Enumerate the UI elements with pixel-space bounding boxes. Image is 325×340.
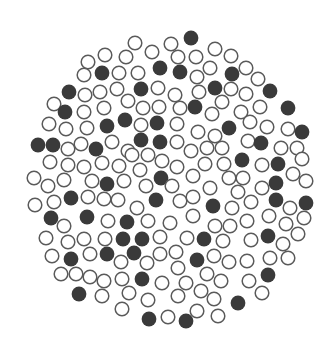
open-disc [222,255,236,269]
open-disc [279,217,293,231]
open-disc [170,160,184,174]
open-disc [260,120,274,134]
open-disc [69,267,83,281]
open-disc [170,135,184,149]
filled-disc [269,193,284,208]
filled-disc [184,31,199,46]
open-disc [43,155,57,169]
open-disc [244,195,258,209]
open-disc [286,167,300,181]
filled-disc [100,119,115,134]
open-disc [133,163,147,177]
filled-disc [149,193,164,208]
open-disc [217,157,231,171]
open-disc [186,169,200,183]
open-disc [240,214,254,228]
open-disc [74,137,88,151]
open-disc [198,157,212,171]
filled-disc [281,101,296,116]
open-disc [251,72,265,86]
open-disc [130,201,144,215]
open-disc [152,100,166,114]
open-disc [114,255,128,269]
open-disc [171,261,185,275]
open-disc [77,68,91,82]
filled-disc [269,176,284,191]
filled-disc [254,136,269,151]
filled-disc [153,61,168,76]
open-disc [59,122,73,136]
open-disc [141,148,155,162]
open-disc [151,81,165,95]
open-disc [165,179,179,193]
open-disc [208,129,222,143]
open-disc [131,66,145,80]
open-disc [115,302,129,316]
open-disc [208,42,222,56]
open-disc [112,66,126,80]
open-disc [111,193,125,207]
filled-disc [120,215,135,230]
open-disc [77,232,91,246]
open-disc [214,274,228,288]
open-disc [191,125,205,139]
open-disc [171,50,185,64]
filled-disc [134,133,149,148]
filled-disc [127,246,142,261]
open-disc [112,159,126,173]
open-disc [83,247,97,261]
filled-disc [118,113,133,128]
filled-disc [58,105,73,120]
open-disc [101,214,115,228]
open-disc [139,179,153,193]
open-disc [184,144,198,158]
open-disc [155,154,169,168]
open-disc [121,94,135,108]
open-disc [39,231,53,245]
filled-disc [190,253,205,268]
open-disc [140,256,154,270]
open-disc [215,141,229,155]
open-disc [119,50,133,64]
open-disc [255,181,269,195]
open-disc [117,174,131,188]
filled-disc [206,199,221,214]
filled-disc [261,229,276,244]
open-disc [98,232,112,246]
open-disc [42,117,56,131]
open-disc [95,156,109,170]
open-disc [80,121,94,135]
open-disc [242,274,256,288]
open-disc [192,85,206,99]
open-disc [255,286,269,300]
open-disc [216,234,230,248]
filled-disc [222,121,237,136]
filled-disc [188,100,203,115]
open-disc [200,141,214,155]
open-disc [203,181,217,195]
open-disc [295,152,309,166]
open-disc [27,171,41,185]
disc-cluster [0,0,325,340]
filled-disc [80,210,95,225]
open-disc [207,249,221,263]
open-disc [47,195,61,209]
open-disc [263,251,277,265]
open-disc [98,48,112,62]
open-disc [128,36,142,50]
open-disc [28,198,42,212]
open-disc [240,254,254,268]
filled-disc [235,153,250,168]
open-disc [255,158,269,172]
open-disc [141,214,155,228]
open-disc [57,219,71,233]
open-disc [171,289,185,303]
filled-disc [100,177,115,192]
open-disc [281,122,295,136]
open-disc [207,292,221,306]
open-disc [93,85,107,99]
open-disc [83,270,97,284]
filled-disc [225,67,240,82]
filled-disc [299,196,314,211]
open-disc [291,227,305,241]
